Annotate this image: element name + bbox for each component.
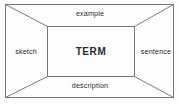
wall-label-example: example: [0, 10, 180, 17]
wall-label-sentence: sentence: [134, 48, 178, 55]
wall-label-sketch: sketch: [6, 48, 46, 55]
wall-label-description: description: [0, 82, 180, 89]
center-label-term: TERM: [47, 47, 135, 57]
diagram-canvas: example sketch sentence description TERM: [0, 0, 180, 104]
